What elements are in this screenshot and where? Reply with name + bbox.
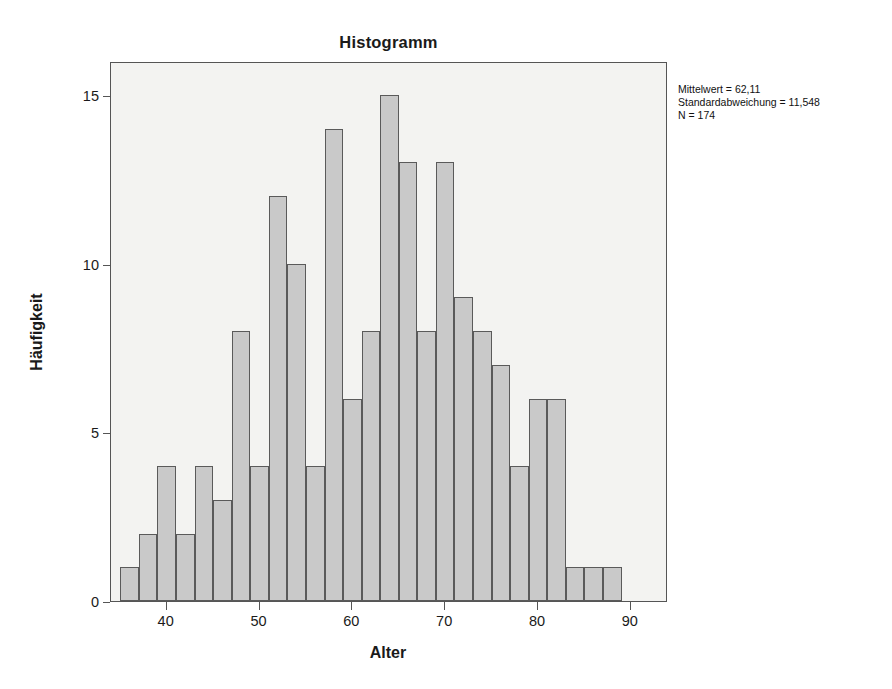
statistic-mean: Mittelwert = 62,11 [678,83,820,96]
histogram-bar [510,466,529,601]
histogram-bar [157,466,176,601]
histogram-bar [306,466,325,601]
histogram-bar [603,567,622,601]
histogram-chart: Histogramm Häufigkeit 051015 Alter 40506… [0,0,892,689]
histogram-bar [417,331,436,601]
statistic-sample-size: N = 174 [678,109,820,122]
x-tick-mark [537,602,538,610]
y-tick-mark [103,433,110,434]
histogram-bar [492,365,511,601]
histogram-bar [325,129,344,602]
x-tick-label: 50 [250,613,266,629]
histogram-bar [176,534,195,602]
x-axis-title: Alter [370,644,406,662]
chart-title: Histogramm [110,33,667,52]
histogram-bar [436,162,455,601]
histogram-bar [362,331,381,601]
y-tick-label: 5 [91,425,99,441]
x-tick-label: 40 [158,613,174,629]
histogram-bar [120,567,139,601]
y-axis: Häufigkeit 051015 [0,0,110,689]
y-tick-label: 10 [83,257,99,273]
x-tick-label: 60 [343,613,359,629]
histogram-bar [343,399,362,602]
x-tick-mark [351,602,352,610]
x-tick-label: 70 [436,613,452,629]
histogram-bar [269,196,288,601]
y-axis-title: Häufigkeit [28,293,46,370]
histogram-bar [380,95,399,601]
x-tick-mark [259,602,260,610]
x-axis: Alter 405060708090 [0,602,892,689]
histogram-bar [213,500,232,601]
histogram-bar [547,399,566,602]
histogram-bar [454,297,473,601]
histogram-bar [139,534,158,602]
histogram-bar [232,331,251,601]
statistics-annotation: Mittelwert = 62,11 Standardabweichung = … [678,83,820,122]
y-tick-mark [103,96,110,97]
plot-frame [110,62,667,602]
histogram-bar [529,399,548,602]
histogram-bar [287,264,306,602]
x-tick-label: 90 [622,613,638,629]
x-tick-label: 80 [529,613,545,629]
x-tick-mark [166,602,167,610]
plot-area [111,63,666,601]
histogram-bar [473,331,492,601]
histogram-bar [195,466,214,601]
histogram-bar [399,162,418,601]
statistic-standard-deviation: Standardabweichung = 11,548 [678,96,820,109]
y-tick-mark [103,265,110,266]
histogram-bar [250,466,269,601]
histogram-bar [584,567,603,601]
x-tick-mark [630,602,631,610]
x-tick-mark [444,602,445,610]
histogram-bar [566,567,585,601]
y-tick-label: 15 [83,88,99,104]
